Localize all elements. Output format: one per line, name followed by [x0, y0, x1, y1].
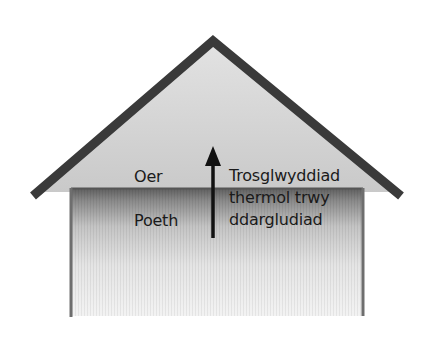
conduction-description: Trosglwyddiad thermol trwy ddargludiad: [229, 165, 340, 231]
house-illustration: [0, 0, 431, 338]
cold-label: Oer: [134, 167, 162, 187]
description-line-3: ddargludiad: [229, 209, 340, 231]
house-diagram: Oer Poeth Trosglwyddiad thermol trwy dda…: [0, 0, 431, 338]
description-line-1: Trosglwyddiad: [229, 165, 340, 187]
hot-label: Poeth: [134, 211, 178, 231]
description-line-2: thermol trwy: [229, 187, 340, 209]
